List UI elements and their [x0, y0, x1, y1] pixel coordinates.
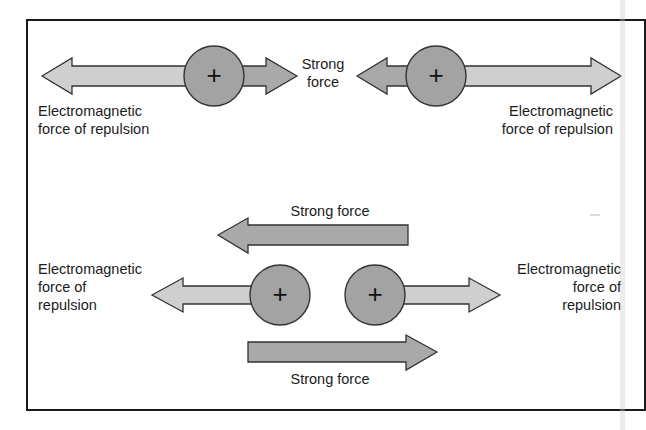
label-line: Electromagnetic	[460, 102, 613, 120]
em-label-right-bottomrow: Electromagnetic force of repulsion	[470, 260, 621, 314]
strong-label-bottomrow-bottom: Strong force	[250, 370, 410, 388]
plus-icon: +	[272, 279, 287, 309]
plus-icon: +	[428, 60, 443, 90]
strong-arrow-top-bottomrow	[218, 218, 408, 253]
plus-icon: +	[367, 279, 382, 309]
label-line: force	[296, 73, 350, 91]
label-line: Electromagnetic	[38, 102, 149, 120]
strong-label-bottomrow-top: Strong force	[250, 202, 410, 220]
label-line: repulsion	[38, 296, 142, 314]
em-label-right-top: Electromagnetic force of repulsion	[460, 102, 613, 138]
em-arrow-left-top	[42, 58, 190, 94]
strong-label-top: Strong force	[296, 55, 350, 91]
em-arrow-right-top	[460, 58, 621, 94]
label-line: force of	[38, 278, 142, 296]
strong-arrow-right-top	[240, 58, 297, 94]
em-arrow-left-bottomrow	[152, 278, 256, 312]
plus-icon: +	[206, 60, 221, 90]
strong-arrow-bottom-bottomrow	[248, 335, 437, 370]
label-line: Electromagnetic	[38, 260, 142, 278]
label-line: repulsion	[470, 296, 621, 314]
page-edge-shadow	[620, 0, 625, 430]
label-line: Electromagnetic	[470, 260, 621, 278]
em-label-left-bottomrow: Electromagnetic force of repulsion	[38, 260, 142, 314]
label-line: force of repulsion	[38, 120, 149, 138]
label-line: force of repulsion	[460, 120, 613, 138]
em-label-left-top: Electromagnetic force of repulsion	[38, 102, 149, 138]
label-line: Strong	[296, 55, 350, 73]
label-line: force of	[470, 278, 621, 296]
strong-arrow-left-top	[357, 58, 412, 94]
